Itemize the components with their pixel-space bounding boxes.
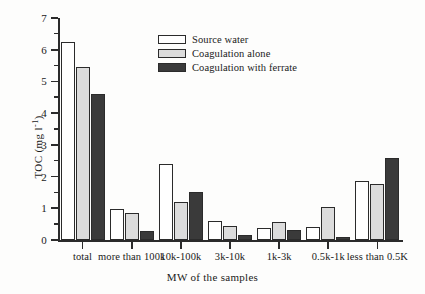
bar xyxy=(61,42,75,240)
x-axis-title: MW of the samples xyxy=(0,271,425,283)
bar xyxy=(76,67,90,240)
x-axis-tick xyxy=(229,242,231,249)
bar xyxy=(385,158,399,240)
bar xyxy=(208,221,222,240)
bar xyxy=(159,164,173,240)
bar-group xyxy=(353,18,402,240)
bar xyxy=(189,192,203,240)
bar xyxy=(257,228,271,240)
y-axis-major-tick xyxy=(51,144,58,146)
y-axis-tick-label: 0 xyxy=(0,235,47,246)
bar-chart-figure: TOC (mg l-1) 01234567 totalmore than 100… xyxy=(0,0,425,294)
y-axis-major-tick xyxy=(51,81,58,83)
x-axis-tick-label: less than 0.5K xyxy=(347,251,408,262)
legend-item: Source water xyxy=(158,33,297,46)
legend-swatch-source-water xyxy=(158,35,186,44)
legend-item-label: Coagulation with ferrate xyxy=(192,62,297,73)
chart-legend: Source waterCoagulation aloneCoagulation… xyxy=(158,33,297,75)
bar xyxy=(238,235,252,240)
bar-group xyxy=(107,18,156,240)
y-axis-major-tick xyxy=(51,239,58,241)
bar xyxy=(223,226,237,240)
x-axis-tick xyxy=(82,242,84,249)
y-axis-tick-label: 4 xyxy=(0,108,47,119)
y-axis-tick-label: 7 xyxy=(0,13,47,24)
y-axis-tick-label: 5 xyxy=(0,76,47,87)
bar xyxy=(355,181,369,240)
y-axis-major-tick xyxy=(51,49,58,51)
x-axis-tick xyxy=(131,242,133,249)
x-axis-tick-label: 10k-100k xyxy=(160,251,201,262)
bar-group xyxy=(58,18,107,240)
y-axis-tick-label: 2 xyxy=(0,171,47,182)
y-axis-tick-label: 1 xyxy=(0,203,47,214)
legend-item: Coagulation alone xyxy=(158,47,297,60)
legend-item-label: Source water xyxy=(192,34,248,45)
y-axis-major-tick xyxy=(51,112,58,114)
legend-swatch-coagulation-alone xyxy=(158,49,186,58)
bar xyxy=(287,230,301,240)
bar xyxy=(336,237,350,240)
bar xyxy=(370,184,384,240)
legend-swatch-coagulation-with-ferrate xyxy=(158,63,186,72)
y-axis-major-tick xyxy=(51,207,58,209)
x-axis-tick xyxy=(180,242,182,249)
bar xyxy=(306,227,320,240)
x-axis-tick-label: 1k-3k xyxy=(267,251,292,262)
y-axis-major-tick xyxy=(51,17,58,19)
y-axis-major-tick xyxy=(51,176,58,178)
legend-item: Coagulation with ferrate xyxy=(158,61,297,74)
x-axis-tick xyxy=(327,242,329,249)
bar-group xyxy=(304,18,353,240)
bar xyxy=(321,207,335,240)
x-axis-tick xyxy=(278,242,280,249)
x-axis-tick-label: 3k-10k xyxy=(215,251,245,262)
bar xyxy=(91,94,105,240)
y-axis-tick-label: 3 xyxy=(0,139,47,150)
x-axis-tick-label: total xyxy=(73,251,92,262)
bar xyxy=(140,231,154,240)
bar xyxy=(174,202,188,240)
y-axis-tick-label: 6 xyxy=(0,44,47,55)
y-axis-title-exponent: -1 xyxy=(31,119,40,126)
x-axis-tick xyxy=(377,242,379,249)
bar xyxy=(125,213,139,240)
bar xyxy=(110,209,124,240)
bar xyxy=(272,222,286,240)
x-axis-tick-label: more than 100k xyxy=(98,251,165,262)
legend-item-label: Coagulation alone xyxy=(192,48,270,59)
x-axis-tick-label: 0.5k-1k xyxy=(312,251,345,262)
